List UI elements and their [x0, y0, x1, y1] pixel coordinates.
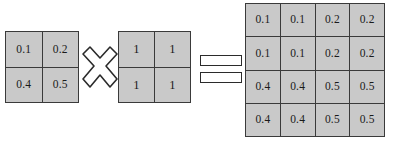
matrix-b-cell-r1c0: 1 — [119, 68, 154, 103]
matrix-b-cell-r0c1: 1 — [155, 32, 190, 67]
matrix-result: 0.1 0.1 0.2 0.2 0.1 0.1 0.2 0.2 0.4 0.4 … — [245, 3, 385, 137]
matrix-result-cell-r2c3: 0.5 — [350, 71, 384, 103]
matrix-result-cell-r3c1: 0.4 — [281, 104, 315, 136]
matrix-result-cell-r3c2: 0.5 — [316, 104, 350, 136]
matrix-result-cell-r1c0: 0.1 — [246, 37, 280, 69]
matrix-result-cell-r1c2: 0.2 — [316, 37, 350, 69]
matrix-result-cell-r0c3: 0.2 — [350, 4, 384, 36]
matrix-result-cell-r3c3: 0.5 — [350, 104, 384, 136]
matrix-result-cell-r3c0: 0.4 — [246, 104, 280, 136]
equals-bar-top — [200, 55, 242, 66]
matrix-b-cell-r0c0: 1 — [119, 32, 154, 67]
multiplication-sign-icon — [80, 44, 120, 90]
matrix-a-cell-r0c0: 0.1 — [6, 32, 42, 67]
matrix-result-cell-r2c0: 0.4 — [246, 71, 280, 103]
matrix-result-cell-r2c1: 0.4 — [281, 71, 315, 103]
equals-bar-bottom — [200, 72, 242, 83]
matrix-result-cell-r0c2: 0.2 — [316, 4, 350, 36]
matrix-result-cell-r0c0: 0.1 — [246, 4, 280, 36]
figure-canvas: 0.1 0.2 0.4 0.5 1 1 1 1 0.1 0.1 0.2 0.2 … — [0, 0, 393, 149]
matrix-result-cell-r0c1: 0.1 — [281, 4, 315, 36]
equals-sign-icon — [200, 55, 242, 85]
matrix-b: 1 1 1 1 — [118, 31, 191, 103]
matrix-result-cell-r1c1: 0.1 — [281, 37, 315, 69]
matrix-b-cell-r1c1: 1 — [155, 68, 190, 103]
matrix-a-cell-r0c1: 0.2 — [43, 32, 79, 67]
matrix-a-cell-r1c1: 0.5 — [43, 68, 79, 103]
matrix-result-cell-r1c3: 0.2 — [350, 37, 384, 69]
matrix-a: 0.1 0.2 0.4 0.5 — [5, 31, 79, 103]
matrix-result-cell-r2c2: 0.5 — [316, 71, 350, 103]
matrix-a-cell-r1c0: 0.4 — [6, 68, 42, 103]
